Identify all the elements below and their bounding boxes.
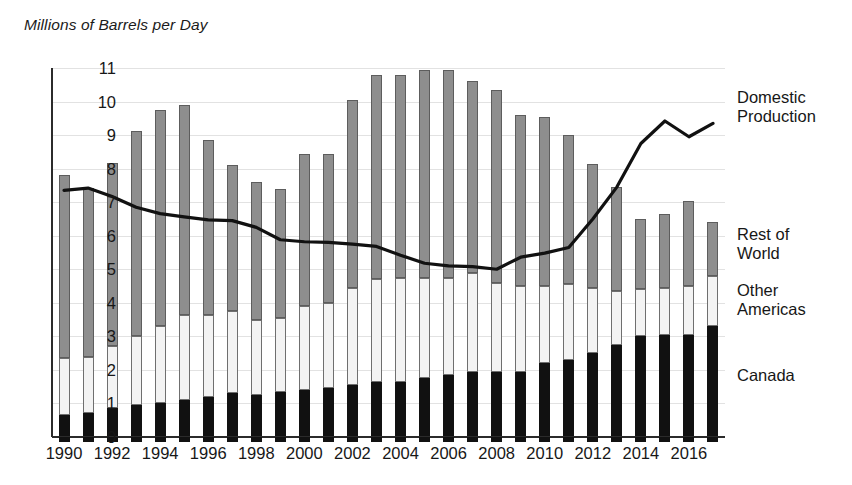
- x-axis-tick-label: 1994: [142, 444, 179, 463]
- x-axis-tick-label: 2016: [671, 444, 708, 463]
- x-tick-mark: [251, 437, 262, 442]
- x-axis-tick-label: 1996: [190, 444, 227, 463]
- x-tick-mark: [227, 437, 238, 442]
- x-tick-mark: [707, 437, 718, 442]
- y-axis-tick-label: 9: [56, 126, 116, 145]
- x-axis-tick-label: 2006: [430, 444, 467, 463]
- y-axis-tick-label: 2: [56, 360, 116, 379]
- x-axis-tick-label: 2010: [526, 444, 563, 463]
- x-tick-mark: [539, 437, 550, 442]
- y-axis-tick-label: 8: [56, 159, 116, 178]
- x-tick-mark: [395, 437, 406, 442]
- x-tick-mark: [683, 437, 694, 442]
- x-tick-mark: [659, 437, 670, 442]
- y-axis-tick-label: 7: [56, 193, 116, 212]
- x-tick-mark: [323, 437, 334, 442]
- x-tick-mark: [131, 437, 142, 442]
- legend-item-domestic-production: Domestic Production: [737, 88, 816, 126]
- y-axis: [51, 68, 53, 437]
- y-axis-tick-label: 6: [56, 226, 116, 245]
- x-tick-mark: [347, 437, 358, 442]
- x-axis-tick-label: 2014: [623, 444, 660, 463]
- y-axis-tick-label: 11: [56, 59, 116, 78]
- x-tick-mark: [611, 437, 622, 442]
- x-axis-tick-label: 2004: [382, 444, 419, 463]
- x-tick-mark: [203, 437, 214, 442]
- x-tick-mark: [299, 437, 310, 442]
- x-axis: [52, 436, 725, 438]
- chart-unit-title: Millions of Barrels per Day: [24, 16, 208, 34]
- x-axis-tick-label: 1998: [238, 444, 275, 463]
- x-tick-mark: [371, 437, 382, 442]
- x-axis-tick-label: 1990: [46, 444, 83, 463]
- legend-item-other-americas: Other Americas: [737, 281, 806, 319]
- x-tick-mark: [467, 437, 478, 442]
- y-axis-tick-label: 3: [56, 327, 116, 346]
- x-axis-tick-label: 2002: [334, 444, 371, 463]
- x-tick-mark: [563, 437, 574, 442]
- x-tick-mark: [443, 437, 454, 442]
- x-tick-mark: [515, 437, 526, 442]
- plot-area: [52, 68, 725, 437]
- x-tick-mark: [179, 437, 190, 442]
- x-tick-mark: [275, 437, 286, 442]
- x-axis-tick-label: 2012: [574, 444, 611, 463]
- x-axis-tick-label: 1992: [94, 444, 131, 463]
- x-tick-mark: [155, 437, 166, 442]
- y-axis-tick-label: 1: [56, 394, 116, 413]
- x-tick-mark: [587, 437, 598, 442]
- x-tick-mark: [635, 437, 646, 442]
- x-axis-tick-label: 2008: [478, 444, 515, 463]
- y-axis-tick-label: 10: [56, 92, 116, 111]
- x-tick-mark: [491, 437, 502, 442]
- y-axis-tick-label: 4: [56, 293, 116, 312]
- x-axis-tick-label: 2000: [286, 444, 323, 463]
- legend-item-rest-of-world: Rest of World: [737, 225, 789, 263]
- x-tick-mark: [419, 437, 430, 442]
- legend-item-canada: Canada: [737, 366, 795, 385]
- chart-container: Millions of Barrels per Day 012345678910…: [0, 0, 852, 485]
- domestic-production-line: [52, 68, 725, 437]
- y-axis-tick-label: 5: [56, 260, 116, 279]
